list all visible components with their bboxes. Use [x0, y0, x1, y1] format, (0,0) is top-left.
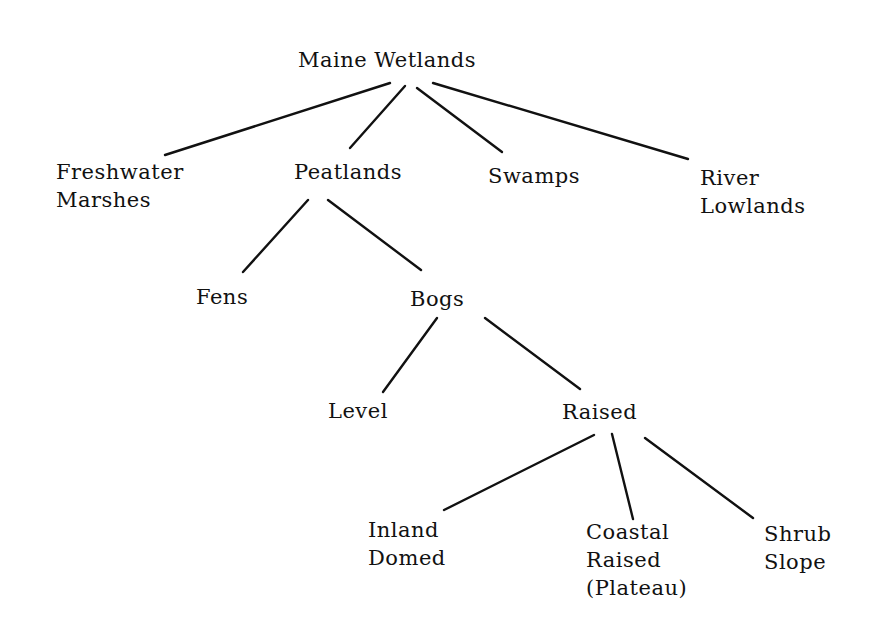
node-label: Level [328, 397, 388, 425]
edge-root-to-river [433, 83, 688, 159]
node-label: Peatlands [294, 158, 402, 186]
node-label: Inland [368, 516, 446, 544]
edge-root-to-freshwater [165, 83, 390, 155]
node-label: Raised [586, 546, 687, 574]
node-river-lowlands: River Lowlands [700, 164, 806, 220]
node-label: Shrub [764, 520, 831, 548]
node-bogs: Bogs [410, 285, 464, 313]
node-level: Level [328, 397, 388, 425]
edge-peatlands-to-bogs [328, 200, 421, 270]
node-raised: Raised [562, 398, 637, 426]
edge-root-to-swamps [417, 88, 502, 152]
node-inland-domed: Inland Domed [368, 516, 446, 572]
node-label: Marshes [56, 186, 184, 214]
node-label: Raised [562, 398, 637, 426]
edge-root-to-peatlands [350, 86, 405, 148]
node-maine-wetlands: Maine Wetlands [298, 46, 476, 74]
node-label: (Plateau) [586, 574, 687, 602]
node-label: Swamps [488, 162, 580, 190]
edge-bogs-to-level [383, 318, 437, 392]
node-swamps: Swamps [488, 162, 580, 190]
node-coastal-raised-plateau: Coastal Raised (Plateau) [586, 518, 687, 602]
edge-bogs-to-raised [485, 318, 580, 389]
node-shrub-slope: Shrub Slope [764, 520, 831, 576]
node-label: Slope [764, 548, 831, 576]
edge-raised-to-inland [444, 435, 594, 510]
node-label: Maine Wetlands [298, 46, 476, 74]
node-label: River [700, 164, 806, 192]
wetlands-tree-diagram: Maine Wetlands Freshwater Marshes Peatla… [0, 0, 875, 631]
node-label: Fens [196, 283, 248, 311]
edge-raised-to-shrub [645, 438, 753, 518]
node-peatlands: Peatlands [294, 158, 402, 186]
node-label: Freshwater [56, 158, 184, 186]
edge-raised-to-coastal [612, 434, 633, 519]
node-label: Coastal [586, 518, 687, 546]
node-label: Domed [368, 544, 446, 572]
node-fens: Fens [196, 283, 248, 311]
node-label: Bogs [410, 285, 464, 313]
node-freshwater-marshes: Freshwater Marshes [56, 158, 184, 214]
edge-peatlands-to-fens [243, 200, 308, 272]
node-label: Lowlands [700, 192, 806, 220]
